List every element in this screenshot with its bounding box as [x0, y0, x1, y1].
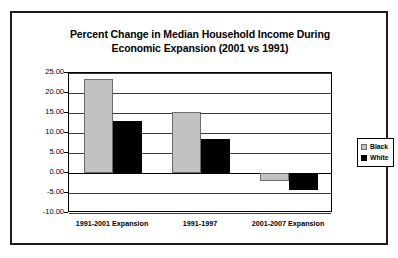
y-axis-tick-label: 15.00 — [22, 108, 64, 116]
y-axis-tick-label: 0.00 — [22, 168, 64, 176]
bar-white-1 — [201, 139, 230, 173]
bar-black-0 — [84, 79, 113, 173]
y-axis-tick-label: -5.00 — [22, 188, 64, 196]
y-axis-tick-mark — [64, 212, 68, 213]
gridline — [69, 73, 331, 74]
y-axis-labels: 25.0020.0015.0010.005.000.00-5.00-10.00 — [20, 72, 64, 212]
y-axis-tick-label: 20.00 — [22, 88, 64, 96]
x-axis-labels: 1991-2001 Expansion1991-19972001-2007 Ex… — [68, 219, 332, 233]
x-axis-tick-label: 1991-2001 Expansion — [68, 219, 156, 229]
legend-swatch-icon — [361, 144, 367, 150]
legend-label: White — [370, 154, 389, 162]
chart-frame: Percent Change in Median Household Incom… — [10, 11, 388, 245]
chart-title-line-1: Percent Change in Median Household Incom… — [32, 27, 368, 41]
bar-black-2 — [260, 173, 289, 181]
x-axis-tick-label: 2001-2007 Expansion — [244, 219, 332, 229]
y-axis-tick-label: 5.00 — [22, 148, 64, 156]
gridline — [69, 193, 331, 194]
legend-label: Black — [370, 143, 388, 151]
chart-title-line-2: Economic Expansion (2001 vs 1991) — [32, 41, 368, 55]
legend-item-black: Black — [361, 142, 389, 152]
chart-title: Percent Change in Median Household Incom… — [32, 27, 368, 55]
x-axis-tick-label: 1991-1997 — [156, 219, 244, 229]
plot-area — [68, 72, 332, 212]
y-axis-tick-label: -10.00 — [22, 208, 64, 216]
gridline — [69, 213, 331, 214]
bar-white-0 — [113, 121, 142, 173]
bar-black-1 — [172, 112, 201, 173]
y-axis-tick-label: 10.00 — [22, 128, 64, 136]
legend-swatch-icon — [361, 155, 367, 161]
bar-white-2 — [289, 173, 318, 190]
legend-item-white: White — [361, 153, 389, 163]
y-axis-tick-label: 25.00 — [22, 68, 64, 76]
chart-legend: BlackWhite — [357, 138, 394, 167]
